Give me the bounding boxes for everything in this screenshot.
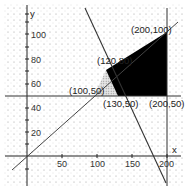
point-label-130-50: (130,50) bbox=[103, 98, 138, 109]
x-axis-label: x bbox=[172, 144, 177, 155]
y-tick-100: 100 bbox=[31, 30, 46, 40]
y-tick-60: 60 bbox=[31, 79, 41, 89]
x-tick-200: 200 bbox=[159, 159, 174, 169]
point-label-120-80: (120,80) bbox=[97, 55, 132, 66]
x-tick-50: 50 bbox=[57, 159, 67, 169]
y-tick-80: 80 bbox=[31, 55, 41, 65]
x-tick-100: 100 bbox=[90, 159, 105, 169]
point-label-200-100: (200,100) bbox=[131, 24, 172, 35]
lp-graph: y x 100 80 60 40 20 50 100 150 200 (100,… bbox=[0, 0, 187, 189]
point-label-200-50: (200,50) bbox=[149, 98, 184, 109]
y-tick-40: 40 bbox=[31, 103, 41, 113]
x-tick-150: 150 bbox=[125, 159, 140, 169]
y-tick-20: 20 bbox=[31, 128, 41, 138]
y-axis-label: y bbox=[30, 8, 35, 19]
point-label-100-50: (100,50) bbox=[69, 85, 104, 96]
